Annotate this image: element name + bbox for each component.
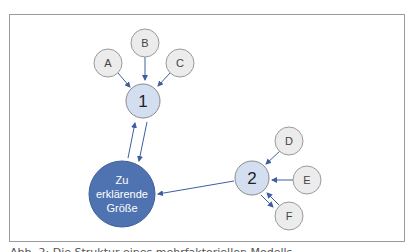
node-d-label: D xyxy=(285,135,293,147)
edge-target-to-1 xyxy=(128,123,135,158)
edge-a-to-1 xyxy=(118,73,130,87)
node-e-label: E xyxy=(303,174,310,186)
node-a-label: A xyxy=(104,57,112,69)
edge-2-to-target xyxy=(158,181,234,194)
node-f-label: F xyxy=(286,210,293,222)
node-c-label: C xyxy=(176,57,184,69)
target-label-line1: Zu xyxy=(116,174,129,186)
edge-c-to-1 xyxy=(158,73,170,86)
node-b-label: B xyxy=(141,37,148,49)
target-label-line2: erklärende xyxy=(96,188,148,200)
node-2-label: 2 xyxy=(247,169,256,188)
target-label-line3: Größe xyxy=(106,202,137,214)
edge-d-to-2 xyxy=(266,151,280,164)
node-1-label: 1 xyxy=(138,92,147,111)
figure-caption: Abb. 2: Die Struktur eines mehrfaktoriel… xyxy=(10,246,292,252)
edge-1-to-target xyxy=(139,122,147,161)
causal-diagram: A B C D E F 1 2 Zu erklärende Größe xyxy=(0,0,417,252)
